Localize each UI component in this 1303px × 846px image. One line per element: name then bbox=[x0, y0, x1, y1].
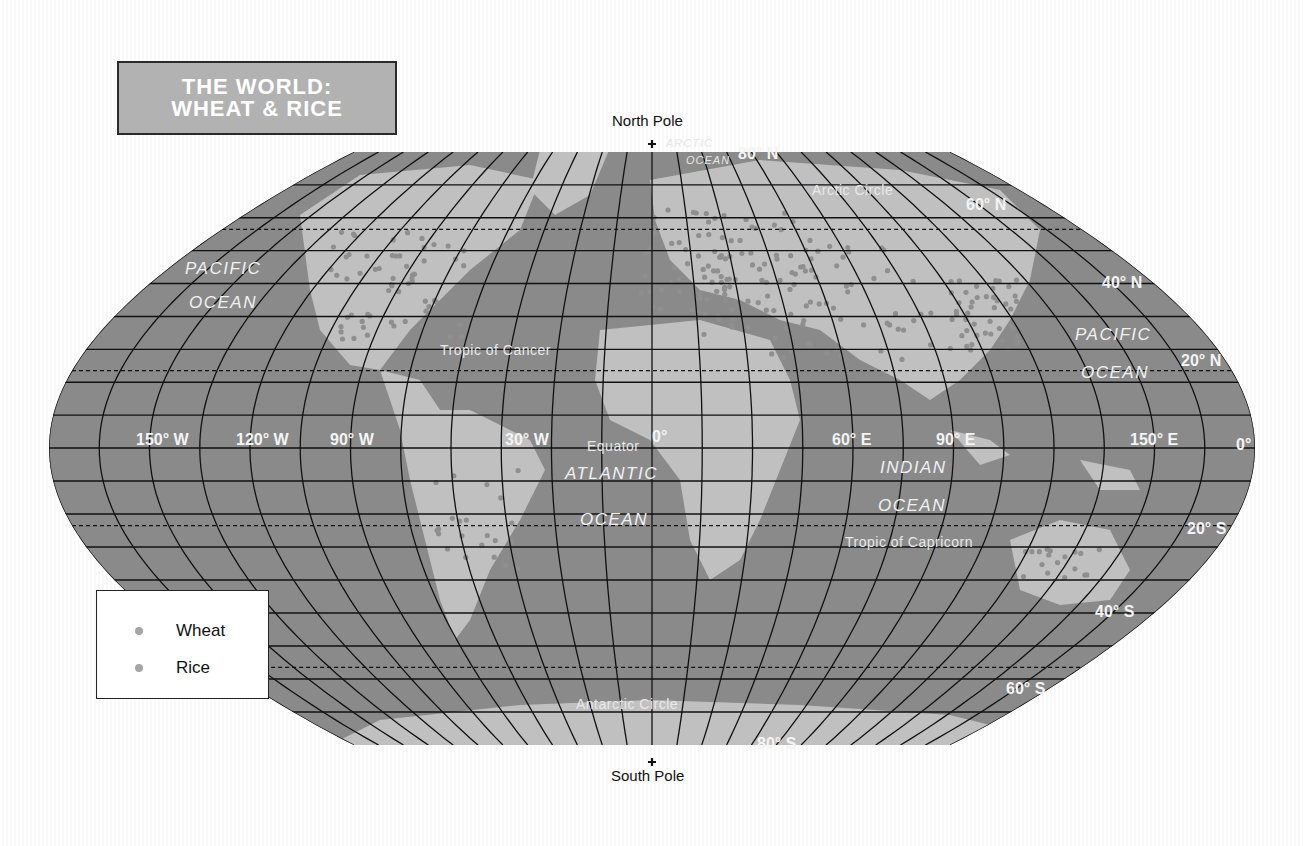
crop-dot bbox=[695, 310, 700, 315]
crop-dot bbox=[1029, 549, 1034, 554]
crop-dot bbox=[983, 331, 988, 336]
crop-dot bbox=[899, 357, 904, 362]
lon-label-150w: 150° W bbox=[136, 431, 189, 449]
crop-dot bbox=[769, 351, 774, 356]
crop-dot bbox=[1014, 278, 1019, 283]
crop-dot bbox=[1003, 301, 1008, 306]
crop-dot bbox=[963, 290, 968, 295]
crop-dot bbox=[485, 533, 490, 538]
crop-dot bbox=[948, 346, 953, 351]
crop-dot bbox=[665, 208, 670, 213]
crop-dot bbox=[1006, 284, 1011, 289]
lat-label-20s: 20° S bbox=[1187, 520, 1226, 538]
crop-dot bbox=[757, 267, 762, 272]
crop-dot bbox=[778, 278, 783, 283]
lon-label-30w: 30° W bbox=[505, 431, 549, 449]
crop-dot bbox=[671, 265, 676, 270]
crop-dot bbox=[431, 242, 436, 247]
crop-dot bbox=[677, 240, 682, 245]
crop-dot bbox=[658, 306, 663, 311]
crop-dot bbox=[706, 219, 711, 224]
crop-dot bbox=[391, 323, 396, 328]
pacific-ocean-east-line2: OCEAN bbox=[1081, 363, 1149, 383]
crop-dot bbox=[669, 241, 674, 246]
crop-dot bbox=[871, 276, 876, 281]
crop-dot bbox=[717, 255, 722, 260]
crop-dot bbox=[750, 262, 755, 267]
crop-dot bbox=[964, 328, 969, 333]
crop-dot bbox=[373, 267, 378, 272]
south-pole-label: South Pole bbox=[611, 767, 684, 784]
crop-dot bbox=[1045, 571, 1050, 576]
crop-dot bbox=[1037, 549, 1042, 554]
crop-dot bbox=[404, 264, 409, 269]
crop-dot bbox=[1000, 338, 1005, 343]
crop-dot bbox=[764, 308, 769, 313]
crop-dot bbox=[639, 291, 644, 296]
crop-dot bbox=[729, 238, 734, 243]
crop-dot bbox=[804, 303, 809, 308]
crop-dot bbox=[419, 236, 424, 241]
crop-dot bbox=[762, 262, 767, 267]
crop-dot bbox=[360, 319, 365, 324]
crop-dot bbox=[450, 516, 455, 521]
crop-dot bbox=[423, 299, 428, 304]
crop-dot bbox=[724, 277, 729, 282]
crop-dot bbox=[738, 238, 743, 243]
pacific-ocean-east-line1: PACIFIC bbox=[1075, 325, 1151, 345]
crop-dot bbox=[1072, 566, 1077, 571]
crop-dot bbox=[461, 263, 466, 268]
crop-dot bbox=[975, 295, 980, 300]
crop-dot bbox=[338, 324, 343, 329]
crop-dot bbox=[845, 245, 850, 250]
crop-dot bbox=[756, 300, 761, 305]
crop-dot bbox=[970, 299, 975, 304]
crop-dot bbox=[503, 563, 508, 568]
crop-dot bbox=[827, 244, 832, 249]
crop-dot bbox=[845, 289, 850, 294]
crop-dot bbox=[652, 231, 657, 236]
crop-dot bbox=[339, 329, 344, 334]
crop-dot bbox=[651, 304, 656, 309]
crop-dot bbox=[807, 238, 812, 243]
crop-dot bbox=[701, 332, 706, 337]
crop-dot bbox=[422, 258, 427, 263]
crop-dot bbox=[950, 317, 955, 322]
crop-dot bbox=[492, 555, 497, 560]
crop-dot bbox=[988, 319, 993, 324]
tropic-of-capricorn-label: Tropic of Capricorn bbox=[845, 534, 973, 550]
crop-dot bbox=[358, 271, 363, 276]
pole-marker-icon bbox=[648, 758, 656, 766]
crop-dot bbox=[896, 327, 901, 332]
crop-dot bbox=[739, 251, 744, 256]
crop-dot bbox=[706, 232, 711, 237]
crop-dot bbox=[831, 306, 836, 311]
crop-dot bbox=[702, 275, 707, 280]
crop-dot bbox=[885, 268, 890, 273]
crop-dot bbox=[717, 316, 722, 321]
crop-dot bbox=[393, 253, 398, 258]
crop-dot bbox=[861, 322, 866, 327]
rice-dot-icon bbox=[135, 664, 143, 672]
crop-dot bbox=[723, 256, 728, 261]
arctic-circle-label: Arctic Circle bbox=[812, 182, 893, 198]
crop-dot bbox=[1078, 551, 1083, 556]
crop-dot bbox=[745, 299, 750, 304]
crop-dot bbox=[344, 276, 349, 281]
crop-dot bbox=[824, 351, 829, 356]
crop-dot bbox=[334, 273, 339, 278]
crop-dot bbox=[972, 322, 977, 327]
crop-dot bbox=[988, 331, 993, 336]
lat-label-40s: 40° S bbox=[1095, 603, 1134, 621]
indian-ocean-line2: OCEAN bbox=[878, 496, 946, 516]
crop-dot bbox=[793, 272, 798, 277]
map-title-line1: THE WORLD: bbox=[182, 76, 333, 98]
crop-dot bbox=[423, 309, 428, 314]
crop-dot bbox=[800, 322, 805, 327]
crop-dot bbox=[974, 284, 979, 289]
crop-dot bbox=[405, 230, 410, 235]
crop-dot bbox=[723, 297, 728, 302]
crop-dot bbox=[1009, 324, 1014, 329]
crop-dot bbox=[849, 282, 854, 287]
crop-dot bbox=[834, 263, 839, 268]
